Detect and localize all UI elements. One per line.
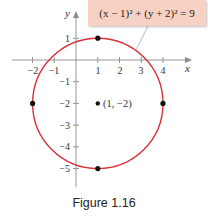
x-tick-label: 1	[96, 65, 101, 76]
point-left	[30, 101, 35, 106]
figure-caption: Figure 1.16	[0, 196, 208, 210]
point-right	[160, 101, 165, 106]
y-tick-label: −5	[59, 163, 70, 174]
x-tick-labels: −2 −1 1 2 3 4	[28, 65, 166, 76]
x-tick-label: 4	[161, 65, 166, 76]
circle-points	[30, 36, 166, 172]
x-tick-label: 2	[118, 65, 123, 76]
y-tick-labels: 1 −1 −2 −3 −4 −5	[59, 33, 70, 174]
equation-text: (x − 1)² + (y + 2)² = 9	[99, 7, 195, 19]
y-tick-label: −1	[59, 76, 70, 87]
y-tick-label: −3	[59, 120, 70, 131]
label-leader-line	[136, 26, 148, 50]
x-tick-label: −1	[49, 65, 60, 76]
y-axis-label: y	[64, 7, 70, 19]
y-tick-label: 1	[65, 33, 70, 44]
point-top	[95, 36, 100, 41]
circle-graph: −2 −1 1 2 3 4 x 1 −1 −2 −3 −4 −5 y (1, −…	[0, 0, 208, 223]
point-bottom	[95, 166, 100, 171]
y-tick-label: −2	[59, 98, 70, 109]
y-axis-arrow-icon	[73, 11, 79, 18]
equation-label: (x − 1)² + (y + 2)² = 9	[88, 0, 206, 26]
x-axis-label: x	[184, 62, 190, 74]
y-tick-label: −4	[59, 141, 70, 152]
point-center	[96, 101, 100, 105]
x-tick-label: −2	[28, 65, 39, 76]
x-tick-label: 3	[139, 65, 144, 76]
center-label: (1, −2)	[103, 98, 132, 110]
